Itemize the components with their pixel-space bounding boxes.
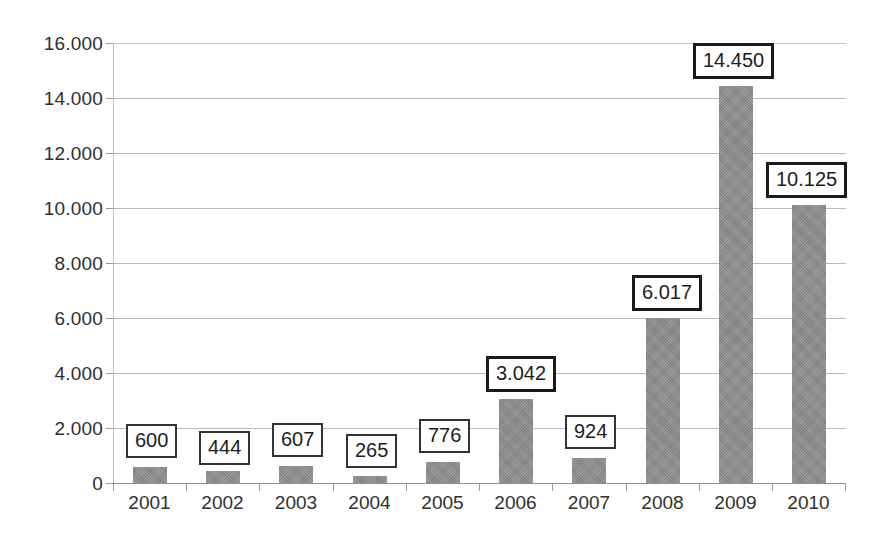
bar-2006[interactable] (499, 399, 533, 483)
data-label-2007: 924 (565, 415, 616, 449)
x-axis-tick-mark (333, 483, 334, 491)
x-axis-category-label-2009: 2009 (699, 492, 772, 514)
x-axis-category-label-2005: 2005 (406, 492, 479, 514)
bar-2003[interactable] (279, 466, 313, 483)
data-label-2001: 600 (126, 424, 177, 458)
bar-2001[interactable] (133, 467, 167, 483)
y-axis-tick-label: 16.000 (0, 33, 103, 55)
data-label-2008: 6.017 (632, 275, 702, 311)
bar-2007[interactable] (572, 458, 606, 483)
bar-2010[interactable] (792, 205, 826, 483)
plot-area (113, 43, 846, 483)
bar-2008[interactable] (646, 318, 680, 483)
x-axis-tick-mark (626, 483, 627, 491)
y-axis-tick-label: 4.000 (0, 363, 103, 385)
y-axis-tick-label: 14.000 (0, 88, 103, 110)
bar-chart: 16.000 14.000 12.000 10.000 8.000 6.000 … (0, 0, 885, 541)
x-axis-tick-mark (845, 483, 846, 491)
y-axis-tick-label: 6.000 (0, 308, 103, 330)
x-axis-tick-mark (552, 483, 553, 491)
y-axis-tick-label: 8.000 (0, 253, 103, 275)
y-axis-tick-label: 10.000 (0, 198, 103, 220)
x-axis-category-label-2008: 2008 (626, 492, 699, 514)
x-axis-category-label-2003: 2003 (259, 492, 333, 514)
data-label-2005: 776 (419, 419, 470, 453)
x-axis-category-label-2002: 2002 (186, 492, 259, 514)
bar-2009[interactable] (719, 86, 753, 483)
x-axis-tick-mark (259, 483, 260, 491)
data-label-2003: 607 (272, 423, 323, 457)
x-axis-category-label-2004: 2004 (333, 492, 406, 514)
x-axis-tick-mark (772, 483, 773, 491)
data-label-2006: 3.042 (486, 356, 556, 392)
x-axis-category-label-2010: 2010 (772, 492, 845, 514)
y-axis-tick-label: 0 (0, 473, 103, 495)
x-axis-category-label-2006: 2006 (479, 492, 552, 514)
x-axis-category-label-2007: 2007 (552, 492, 626, 514)
data-label-2010: 10.125 (766, 162, 847, 198)
bar-2005[interactable] (426, 462, 460, 483)
bar-2002[interactable] (206, 471, 240, 483)
bar-2004[interactable] (353, 476, 387, 483)
data-label-2002: 444 (199, 431, 250, 465)
data-label-2004: 265 (346, 434, 397, 468)
data-label-2009: 14.450 (693, 43, 774, 79)
x-axis-tick-mark (699, 483, 700, 491)
x-axis-tick-mark (406, 483, 407, 491)
y-axis-tick-label: 2.000 (0, 418, 103, 440)
x-axis-tick-mark (479, 483, 480, 491)
y-axis-tick-label: 12.000 (0, 143, 103, 165)
x-axis-tick-mark (186, 483, 187, 491)
x-axis-tick-mark (113, 483, 114, 491)
x-axis-category-label-2001: 2001 (113, 492, 186, 514)
